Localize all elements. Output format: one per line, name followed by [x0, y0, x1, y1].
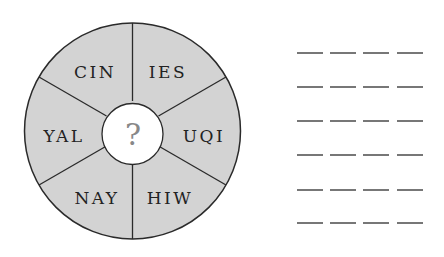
letter-blank: [363, 86, 389, 88]
letter-blank: [397, 52, 423, 54]
letter-blank: [297, 52, 323, 54]
letter-blank: [330, 222, 356, 224]
letter-blank: [330, 154, 356, 156]
letter-blank: [330, 86, 356, 88]
answer-row-1[interactable]: [297, 52, 427, 54]
question-mark: ?: [125, 117, 141, 152]
letter-blank: [297, 120, 323, 122]
segment-label-hiw: HIW: [147, 188, 194, 208]
answer-row-3[interactable]: [297, 120, 427, 122]
letter-blank: [363, 222, 389, 224]
letter-blank: [363, 52, 389, 54]
letter-blank: [397, 120, 423, 122]
letter-blank: [397, 86, 423, 88]
letter-blank: [397, 154, 423, 156]
letter-blank: [330, 189, 356, 191]
segment-label-yal: YAL: [43, 126, 85, 146]
letter-blank: [363, 154, 389, 156]
letter-blank: [330, 120, 356, 122]
segment-label-cin: CIN: [74, 62, 116, 82]
letter-wheel: CIN IES UQI HIW NAY YAL ?: [0, 0, 270, 257]
letter-blank: [297, 154, 323, 156]
letter-blank: [397, 222, 423, 224]
segment-label-nay: NAY: [74, 188, 119, 208]
letter-blank: [297, 222, 323, 224]
letter-blank: [330, 52, 356, 54]
letter-blank: [297, 86, 323, 88]
letter-blank: [297, 189, 323, 191]
segment-label-ies: IES: [149, 62, 187, 82]
letter-blank: [397, 189, 423, 191]
answer-row-2[interactable]: [297, 86, 427, 88]
answer-row-6[interactable]: [297, 222, 427, 224]
answer-row-5[interactable]: [297, 189, 427, 191]
letter-blank: [363, 120, 389, 122]
segment-label-uqi: UQI: [183, 126, 225, 146]
letter-blank: [363, 189, 389, 191]
answer-row-4[interactable]: [297, 154, 427, 156]
